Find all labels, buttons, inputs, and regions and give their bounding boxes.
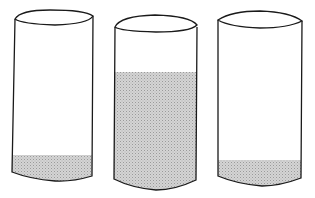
glass-rim	[218, 11, 302, 28]
glasses-diagram	[0, 0, 315, 198]
liquid-fill	[114, 72, 197, 190]
glass-rim	[15, 10, 93, 25]
glass-3	[218, 11, 302, 186]
liquid-fill	[12, 155, 92, 181]
glass-1	[12, 10, 93, 181]
glass-2	[114, 15, 197, 190]
glass-rim	[115, 15, 197, 32]
